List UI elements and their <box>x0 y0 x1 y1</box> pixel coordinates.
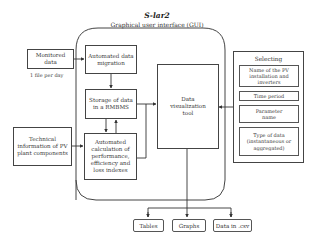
technical-info-label: Technical information of PV plant compon… <box>15 136 70 157</box>
output-graphs: Graphs <box>172 219 206 232</box>
output-label: Data in .csv <box>216 223 249 229</box>
data-storage-box: Storage of data in a RMBMS <box>85 89 137 119</box>
technical-info-box: Technical information of PV plant compon… <box>13 127 72 166</box>
output-tables: Tables <box>133 219 164 232</box>
selecting-item-parameter: Parameter name <box>239 105 299 123</box>
selecting-panel: Selecting Name of the PV installation an… <box>233 51 304 163</box>
monitored-data-note: 1 file per day <box>30 72 63 78</box>
data-migration-label: Automated data migration <box>87 53 135 67</box>
output-csv: Data in .csv <box>213 219 252 232</box>
calculation-label: Automated calculation of performance, ef… <box>86 139 135 174</box>
selecting-item-data-type: Type of data (instantaneous or aggregate… <box>239 127 299 156</box>
output-label: Tables <box>139 223 157 229</box>
selecting-item-label: Type of data (instantaneous or aggregate… <box>240 132 298 151</box>
selecting-item-label: Parameter name <box>252 108 286 120</box>
diagram-title: S-lar2 <box>0 11 314 20</box>
calculation-box: Automated calculation of performance, ef… <box>84 133 137 180</box>
data-migration-box: Automated data migration <box>85 45 137 74</box>
diagram-subtitle: Graphical user interface (GUI) <box>0 21 314 28</box>
monitored-data-box: Monitored data <box>27 49 74 69</box>
data-storage-label: Storage of data in a RMBMS <box>87 97 135 111</box>
selecting-item-time-period: Time period <box>239 91 299 101</box>
visualization-tool-box: Data visualization tool <box>157 64 219 149</box>
selecting-title: Selecting <box>234 56 303 63</box>
selecting-item-label: Time period <box>254 93 285 99</box>
monitored-data-label: Monitored data <box>29 52 72 66</box>
output-label: Graphs <box>179 223 200 229</box>
selecting-item-label: Name of the PV installation and inverter… <box>240 67 298 86</box>
visualization-tool-label: Data visualization tool <box>168 96 208 117</box>
selecting-item-installation: Name of the PV installation and inverter… <box>239 65 299 87</box>
